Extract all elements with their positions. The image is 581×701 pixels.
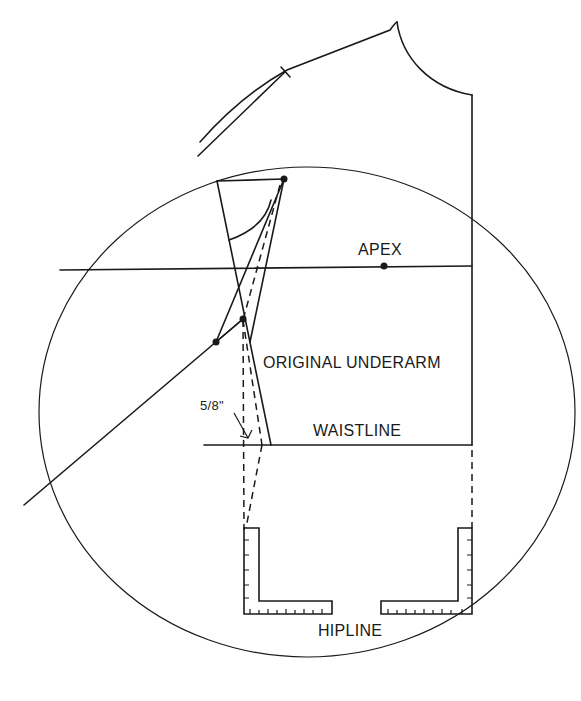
neckline-curve [397, 22, 472, 95]
hipline-label: HIPLINE [318, 622, 382, 640]
diagram-drawing [0, 0, 581, 701]
new-side-dashed-3 [243, 320, 262, 445]
measure-arrow [234, 413, 248, 438]
dart-leg-left [216, 179, 284, 342]
new-side-dashed-4 [246, 445, 262, 528]
dart-top [217, 179, 284, 181]
shoulder-line [200, 22, 397, 142]
new-side-dashed-1 [243, 185, 280, 320]
dart-leg-right [250, 179, 284, 342]
apex-point [381, 263, 388, 270]
shoulder-line-offset [198, 72, 285, 156]
pattern-diagram: APEX ORIGINAL UNDERARM WAISTLINE HIPLINE… [0, 0, 581, 701]
ruler-right [381, 528, 472, 614]
measurement-label: 5/8" [200, 398, 224, 413]
dart-arc [229, 200, 271, 240]
apex-label: APEX [358, 241, 402, 259]
original-underarm-label: ORIGINAL UNDERARM [263, 354, 441, 372]
waistline-label: WAISTLINE [313, 422, 401, 440]
ruler-left [244, 528, 332, 614]
ruler-ticks [244, 540, 472, 614]
detail-circle [39, 167, 575, 657]
new-side-dashed-2 [243, 320, 244, 530]
